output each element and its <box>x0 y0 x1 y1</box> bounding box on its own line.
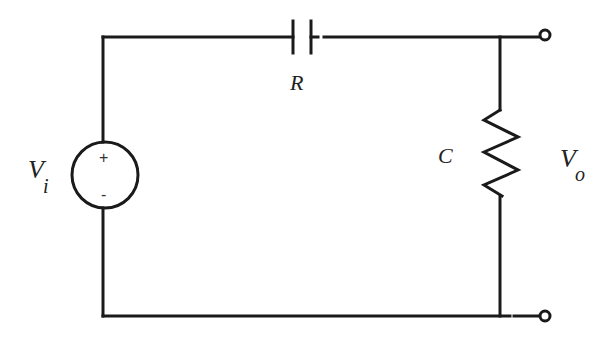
series-component-label: R <box>289 70 304 95</box>
resistor-icon <box>484 110 518 196</box>
output-voltage-subscript: o <box>575 163 585 185</box>
input-voltage-subscript: i <box>43 175 49 197</box>
output-terminal-top-icon <box>540 30 550 40</box>
source-plus-sign: + <box>99 149 108 166</box>
shunt-component-label: C <box>438 143 453 168</box>
output-terminal-bottom-icon <box>540 311 550 321</box>
circuit-diagram: + - R C V i V o <box>0 0 614 340</box>
source-minus-sign: - <box>101 186 106 203</box>
